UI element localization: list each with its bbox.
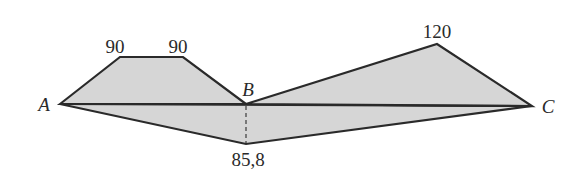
right-triangle <box>246 44 532 106</box>
geometry-diagram: 90 90 120 85,8 A B C <box>0 0 584 180</box>
point-label-a: A <box>36 94 50 115</box>
height-label-90-right: 90 <box>169 36 188 57</box>
height-label-90-left: 90 <box>106 36 125 57</box>
lower-region <box>60 104 532 144</box>
height-label-85-8: 85,8 <box>231 149 264 170</box>
left-trapezoid <box>60 57 246 104</box>
point-label-c: C <box>542 96 555 117</box>
point-label-b: B <box>242 79 254 100</box>
height-label-120: 120 <box>423 21 452 42</box>
